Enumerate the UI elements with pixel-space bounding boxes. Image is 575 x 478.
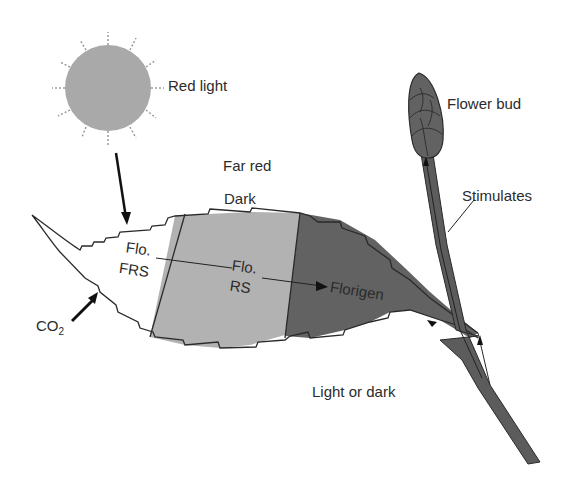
flower-bud-icon <box>409 73 444 158</box>
label-red-light: Red light <box>168 77 227 94</box>
label-light-or-dark: Light or dark <box>312 383 395 400</box>
label-flo-rs-1: Flo. <box>231 256 258 276</box>
stimulates-pointer <box>448 200 474 232</box>
light-arrow-icon <box>116 153 131 225</box>
label-far-red: Far red <box>223 157 271 174</box>
label-stimulates: Stimulates <box>462 187 532 204</box>
label-dark: Dark <box>224 190 256 207</box>
label-flo-rs-2: RS <box>229 277 252 297</box>
leaf-arrow-icon <box>427 320 437 327</box>
co2-text: CO <box>36 317 59 334</box>
sun-icon <box>52 32 164 146</box>
label-flo-frs-1: Flo. <box>125 238 152 258</box>
diagram-canvas <box>0 0 575 478</box>
co2-arrow-icon <box>72 292 98 321</box>
co2-subscript: 2 <box>59 326 65 337</box>
label-co2: CO2 <box>36 317 64 337</box>
label-flower-bud: Flower bud <box>447 95 521 112</box>
